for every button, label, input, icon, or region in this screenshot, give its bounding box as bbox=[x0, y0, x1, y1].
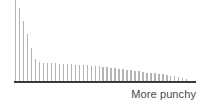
bar bbox=[138, 71, 139, 81]
bar bbox=[71, 64, 72, 81]
chart-screenshot: More punchy bbox=[0, 0, 203, 109]
bar bbox=[55, 63, 56, 81]
bar bbox=[67, 64, 68, 81]
bar bbox=[43, 63, 44, 81]
bar bbox=[83, 65, 84, 81]
bar bbox=[126, 70, 127, 81]
bar bbox=[75, 65, 76, 81]
bar bbox=[102, 67, 103, 81]
bar bbox=[27, 34, 28, 81]
bar bbox=[91, 66, 92, 81]
x-axis-label: More punchy bbox=[131, 88, 196, 100]
bar bbox=[150, 73, 151, 81]
bar bbox=[114, 68, 115, 81]
bar bbox=[118, 69, 119, 81]
bar-chart-plot: More punchy bbox=[0, 0, 203, 109]
x-axis-line bbox=[14, 81, 196, 83]
bar bbox=[23, 21, 24, 81]
bar bbox=[19, 8, 20, 81]
bar bbox=[142, 72, 143, 81]
bar bbox=[31, 48, 32, 81]
bar bbox=[15, 0, 16, 81]
bar bbox=[106, 67, 107, 81]
bar bbox=[51, 63, 52, 81]
bar bbox=[95, 66, 96, 81]
bar bbox=[79, 65, 80, 81]
bar bbox=[63, 64, 64, 81]
bar bbox=[158, 74, 159, 81]
bar bbox=[134, 71, 135, 81]
bar bbox=[146, 73, 147, 81]
bar bbox=[122, 69, 123, 81]
bar bbox=[99, 66, 100, 81]
bar bbox=[154, 73, 155, 81]
bar bbox=[110, 68, 111, 81]
bar bbox=[59, 64, 60, 81]
bar bbox=[35, 59, 36, 81]
bar bbox=[130, 70, 131, 81]
bar bbox=[39, 62, 40, 81]
bar bbox=[87, 65, 88, 81]
bar bbox=[162, 74, 163, 81]
bar bbox=[47, 63, 48, 81]
